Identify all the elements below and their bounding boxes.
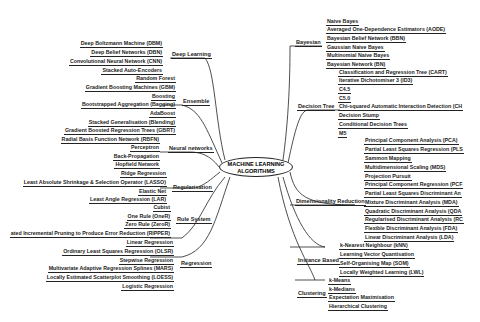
left-item: Ordinary Least Squares Regression (OLSR) [62, 248, 174, 256]
left-item: Logistic Regression [121, 283, 174, 291]
left-item: Deep Belief Networks (DBN) [90, 49, 163, 57]
left-item: Boosting [151, 93, 176, 101]
right-item: Learning Vector Quantisation [339, 251, 415, 259]
right-item: Regularised Discriminant Analysis (RC [364, 216, 464, 224]
right-item: C5.0 [338, 95, 351, 103]
right-item: Conditional Decision Trees [338, 121, 408, 129]
category-instance-based: Instance Based [297, 257, 340, 265]
category-dimensionality-reduction: Dimensionality Reduction [295, 198, 366, 206]
left-item: Gradient Boosting Machines (GBM) [85, 84, 176, 92]
left-item: Perceptron [130, 144, 160, 152]
left-item: ated Incremental Pruning to Produce Erro… [10, 230, 171, 238]
right-item: Partial Least Squares Regression (PLS [364, 146, 464, 154]
left-item: Least Angle Regression (LAR) [89, 196, 167, 204]
right-item: Locally Weighted Learning (LWL) [339, 269, 424, 277]
right-item: Flexible Discriminant Analysis (FDA) [364, 225, 458, 233]
right-item: M5 [338, 130, 347, 138]
category-deep-learning: Deep Learning [171, 51, 212, 59]
left-item: Gradient Boosted Regression Trees (GBRT) [64, 127, 176, 135]
right-item: Naive Bayes [326, 18, 359, 26]
left-item: Convolutional Neural Network (CNN) [69, 58, 163, 66]
right-item: Mixture Discriminant Analysis (MDA) [364, 199, 459, 207]
right-item: Projection Pursuit [364, 173, 412, 181]
left-item: Stacked Generalisation (Blending) [88, 119, 176, 127]
right-item: Classification and Regression Tree (CART… [338, 69, 448, 77]
category-decision-tree: Decision Tree [297, 103, 335, 111]
left-item: Radial Basis Function Network (RBFN) [61, 136, 160, 144]
left-item: Ridge Regression [120, 170, 167, 178]
right-item: Quadratic Discriminant Analysis (QDA [364, 208, 462, 216]
right-item: Sammon Mapping [364, 155, 412, 163]
right-item: Multidimensional Scaling (MDS) [364, 164, 446, 172]
left-item: Cubist [153, 204, 171, 212]
right-item: Iterative Dichotomiser 3 (ID3) [338, 77, 413, 85]
category-ensemble: Ensemble [182, 98, 210, 106]
left-item: Linear Regression [126, 239, 174, 247]
left-item: Random Forest [135, 75, 176, 83]
right-item: k-Medians [328, 286, 356, 294]
category-rule-system: Rule System [176, 216, 212, 224]
right-item: Self-Organising Map (SOM) [339, 260, 410, 268]
left-item: Least Absolute Shrinkage & Selection Ope… [23, 179, 167, 187]
left-item: AdaBoost [149, 110, 176, 118]
category-regression: Regression [180, 260, 212, 268]
center-title-line1: MACHINE LEARNING [220, 161, 292, 168]
category-regularisation: Regularisation [172, 184, 213, 192]
left-item: Bootstrapped Aggregation (Bagging) [81, 101, 176, 109]
right-item: Chi-squared Automatic Interaction Detect… [338, 103, 463, 111]
right-item: k-Nearest Neighbour (kNN) [339, 242, 409, 250]
category-clustering: Clustering [297, 290, 327, 298]
right-item: Hierarchical Clustering [328, 303, 388, 311]
right-item: k-Means [328, 277, 351, 285]
left-item: Deep Boltzmann Machine (DBM) [80, 40, 163, 48]
left-item: Back-Propagation [113, 153, 160, 161]
right-item: Gaussian Naive Bayes [326, 44, 385, 52]
right-item: Linear Discriminant Analysis (LDA) [364, 234, 454, 242]
left-item: Locally Estimated Scatterplot Smoothing … [46, 274, 174, 282]
right-item: Bayesian Network (BN) [326, 61, 386, 69]
center-title-line2: ALGORITHMS [220, 168, 292, 175]
right-item: C4.5 [338, 86, 351, 94]
category-neural-networks: Neural networks [168, 145, 214, 153]
right-item: Principal Component Regression (PCF [364, 181, 463, 189]
left-item: Stepwise Regression [119, 257, 174, 265]
right-item: Averaged One-Dependence Estimators (AODE… [326, 26, 446, 34]
category-bayesian: Bayesian [295, 39, 322, 47]
central-node: MACHINE LEARNING ALGORITHMS [219, 157, 293, 177]
left-item: Multivariate Adaptive Regression Splines… [48, 265, 174, 273]
left-item: Zero Rule (ZeroR) [124, 221, 171, 229]
right-item: Partial Least Squares Discriminant An [364, 190, 462, 198]
right-item: Decision Stump [338, 112, 380, 120]
left-item: One Rule (OneR) [127, 213, 171, 221]
left-item: Stacked Auto-Encoders [101, 67, 163, 75]
right-item: Multinomial Naive Bayes [326, 52, 390, 60]
left-item: Elastic Net [138, 188, 167, 196]
right-item: Bayesian Belief Network (BBN) [326, 35, 406, 43]
right-item: Expectation Maximisation [328, 294, 395, 302]
right-item: Principal Component Analysis (PCA) [364, 137, 459, 145]
left-item: Hopfield Network [114, 161, 160, 169]
